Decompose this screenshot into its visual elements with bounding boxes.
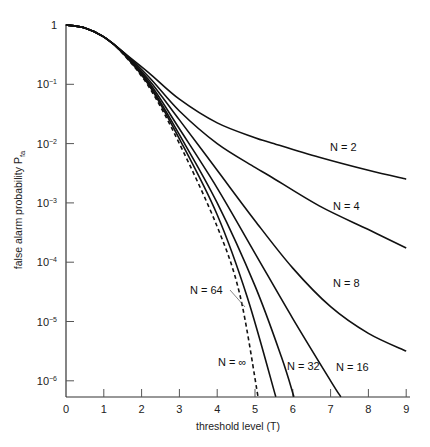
x-axis-title: threshold level (T) xyxy=(196,420,280,432)
leader-line xyxy=(230,290,245,307)
x-tick-label: 6 xyxy=(290,403,296,415)
y-axis-title-sub: fa xyxy=(18,150,27,157)
y-tick-label: 10−4 xyxy=(37,256,57,268)
curve-label: N = ∞ xyxy=(218,356,246,368)
x-tick-label: 2 xyxy=(139,403,145,415)
y-tick-label: 10−5 xyxy=(37,316,57,328)
curve-label: N = 16 xyxy=(336,361,369,373)
x-tick-label: 9 xyxy=(403,403,409,415)
y-tick-label: 10−6 xyxy=(37,375,57,387)
curve-n∞ xyxy=(66,25,258,397)
y-axis-title: false alarm probability Pfa xyxy=(12,150,27,269)
y-tick-label: 10−2 xyxy=(37,138,57,150)
y-tick-label: 10−1 xyxy=(37,78,57,90)
curve-label: N = 8 xyxy=(333,277,360,289)
x-ticks: 0123456789 xyxy=(63,389,409,415)
false-alarm-chart: 0123456789 110−110−210−310−410−510−6 N =… xyxy=(0,0,430,447)
curve-n16 xyxy=(66,25,341,397)
curve-n4 xyxy=(66,25,406,248)
curve-label: N = 64 xyxy=(190,284,223,296)
curve-labels: N = 2N = 4N = 8N = 16N = 32N = 64N = ∞ xyxy=(190,141,369,373)
curve-label: N = 2 xyxy=(330,141,357,153)
y-tick-label: 10−3 xyxy=(37,197,57,209)
curve-n64 xyxy=(66,25,276,397)
x-tick-label: 5 xyxy=(252,403,258,415)
x-tick-label: 1 xyxy=(101,403,107,415)
curve-label: N = 4 xyxy=(333,200,360,212)
x-tick-label: 7 xyxy=(328,403,334,415)
x-tick-label: 3 xyxy=(176,403,182,415)
x-tick-label: 0 xyxy=(63,403,69,415)
x-tick-label: 4 xyxy=(214,403,220,415)
curve-label: N = 32 xyxy=(287,360,320,372)
curve-n8 xyxy=(66,25,406,351)
x-tick-label: 8 xyxy=(365,403,371,415)
y-ticks: 110−110−210−310−410−510−6 xyxy=(37,19,74,387)
y-axis-title-main: false alarm probability P xyxy=(12,157,24,269)
y-tick-label: 1 xyxy=(51,19,57,31)
